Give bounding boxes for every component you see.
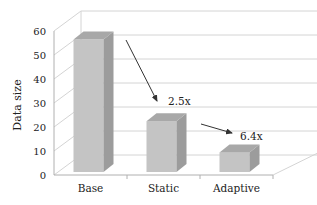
annotation-6.4x: 6.4x [240, 130, 263, 142]
y-tick-label: 0 [40, 170, 46, 181]
bar-front-adaptive [220, 152, 250, 172]
bar-front-base [74, 40, 104, 172]
y-axis-title: Data size [11, 79, 24, 130]
bar-chart-3d: 0102030405060BaseStaticAdaptive2.5x6.4xD… [0, 0, 317, 205]
y-tick-label: 50 [33, 50, 46, 61]
y-tick-label: 30 [33, 98, 46, 109]
y-tick-label: 20 [33, 122, 46, 133]
annotation-2.5x: 2.5x [168, 95, 191, 107]
y-tick-label: 40 [33, 74, 46, 85]
bar-side-base [104, 32, 114, 172]
arrow-static-to-adaptive [201, 124, 232, 133]
y-tick-label: 60 [33, 26, 46, 37]
x-category-label: Static [148, 182, 179, 194]
x-category-label: Adaptive [212, 182, 260, 194]
arrow-base-to-static [126, 40, 157, 101]
gridline-diagonal [54, 11, 81, 31]
bar-side-static [177, 113, 187, 172]
bar-front-static [147, 121, 177, 172]
floor-right-edge [273, 147, 317, 175]
y-tick-label: 10 [33, 146, 46, 157]
chart-container: 0102030405060BaseStaticAdaptive2.5x6.4xD… [0, 0, 317, 205]
x-category-label: Base [78, 182, 104, 194]
